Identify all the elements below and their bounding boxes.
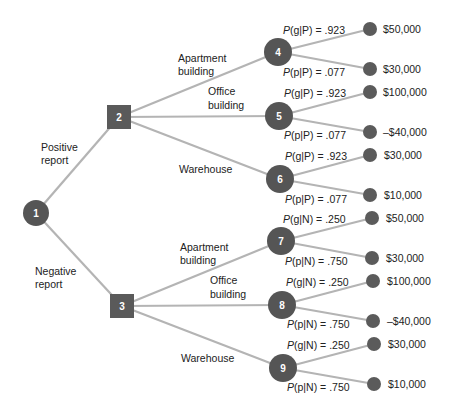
terminal-node-8-good xyxy=(366,274,380,288)
prob-4-good: P(g|P) = .923 xyxy=(283,24,345,36)
branch-label-office-pos-line2: building xyxy=(208,99,244,111)
decision-node-2: 2 xyxy=(107,105,131,129)
branch-label-office-neg-line1: Office xyxy=(210,274,237,286)
payoff-9-poor: $10,000 xyxy=(388,378,426,390)
node-label-1: 1 xyxy=(33,208,39,219)
payoff-9-good: $30,000 xyxy=(388,338,426,350)
payoff-4-good: $50,000 xyxy=(383,23,421,35)
decision-node-3: 3 xyxy=(110,294,134,318)
payoff-7-good: $50,000 xyxy=(386,212,424,224)
prob-6-poor: P(p|P) = .077 xyxy=(285,193,347,205)
prob-5-good: P(g|P) = .923 xyxy=(284,87,346,99)
terminal-node-6-good xyxy=(363,148,377,162)
node-label-2: 2 xyxy=(116,112,122,123)
edges xyxy=(36,29,374,384)
probability-labels: P(g|P) = .923 P(p|P) = .077 P(g|P) = .92… xyxy=(283,24,350,393)
node-label-3: 3 xyxy=(119,301,125,312)
prob-6-good: P(g|P) = .923 xyxy=(285,150,347,162)
terminal-node-4-good xyxy=(363,22,377,36)
terminal-node-4-poor xyxy=(363,62,377,76)
branch-label-apartment-pos-line1: Apartment xyxy=(178,52,227,64)
chance-node-9: 9 xyxy=(269,354,297,382)
prob-8-poor: P(p|N) = .750 xyxy=(287,318,350,330)
prob-4-poor: P(p|P) = .077 xyxy=(283,66,345,78)
branch-label-negative-line1: Negative xyxy=(35,265,77,277)
decision-tree-diagram: Positive report Negative report Apartmen… xyxy=(0,0,452,414)
payoffs: $50,000 $30,000 $100,000 –$40,000 $30,00… xyxy=(383,23,431,390)
payoff-6-good: $30,000 xyxy=(384,149,422,161)
branch-label-positive-line2: report xyxy=(41,154,69,166)
chance-node-6: 6 xyxy=(266,165,294,193)
terminal-node-9-poor xyxy=(367,377,381,391)
payoff-6-poor: $10,000 xyxy=(384,189,422,201)
chance-node-8: 8 xyxy=(268,291,296,319)
terminal-node-5-poor xyxy=(363,125,377,139)
branch-label-apartment-pos-line2: building xyxy=(178,65,214,77)
branch-label-apartment-neg-line1: Apartment xyxy=(180,241,229,253)
terminal-nodes xyxy=(363,22,381,391)
chance-node-5: 5 xyxy=(265,102,293,130)
payoff-8-poor: –$40,000 xyxy=(387,315,431,327)
payoff-5-good: $100,000 xyxy=(383,86,427,98)
prob-8-good: P(g|N) = .250 xyxy=(286,276,349,288)
branch-label-apartment-neg-line2: building xyxy=(180,254,216,266)
prob-9-poor: P(p|N) = .750 xyxy=(287,381,350,393)
payoff-8-good: $100,000 xyxy=(387,275,431,287)
edge-1-3 xyxy=(36,213,122,306)
chance-node-1: 1 xyxy=(23,200,49,226)
node-label-7: 7 xyxy=(278,236,284,247)
payoff-7-poor: $30,000 xyxy=(386,252,424,264)
node-label-6: 6 xyxy=(277,174,283,185)
branch-label-warehouse-neg: Warehouse xyxy=(181,352,234,364)
branch-label-warehouse-pos: Warehouse xyxy=(179,163,232,175)
prob-5-poor: P(p|P) = .077 xyxy=(284,129,346,141)
prob-9-good: P(g|N) = .250 xyxy=(287,339,350,351)
payoff-5-poor: –$40,000 xyxy=(383,126,427,138)
node-label-5: 5 xyxy=(276,111,282,122)
terminal-node-9-good xyxy=(367,337,381,351)
prob-7-poor: P(p|N) = .750 xyxy=(285,255,348,267)
terminal-node-8-poor xyxy=(366,314,380,328)
terminal-node-7-poor xyxy=(365,251,379,265)
edge-3-8 xyxy=(122,305,282,306)
terminal-node-5-good xyxy=(363,85,377,99)
payoff-4-poor: $30,000 xyxy=(383,63,421,75)
prob-7-good: P(g|N) = .250 xyxy=(283,213,346,225)
chance-node-4: 4 xyxy=(264,38,292,66)
branch-label-negative-line2: report xyxy=(35,278,63,290)
branch-label-office-pos-line1: Office xyxy=(208,85,235,97)
node-label-4: 4 xyxy=(275,47,281,58)
branch-label-office-neg-line2: building xyxy=(210,288,246,300)
chance-node-7: 7 xyxy=(267,227,295,255)
terminal-node-7-good xyxy=(365,211,379,225)
branch-label-positive-line1: Positive xyxy=(41,141,78,153)
node-label-8: 8 xyxy=(279,300,285,311)
terminal-node-6-poor xyxy=(363,188,377,202)
edge-2-5 xyxy=(119,116,279,117)
node-label-9: 9 xyxy=(280,363,286,374)
